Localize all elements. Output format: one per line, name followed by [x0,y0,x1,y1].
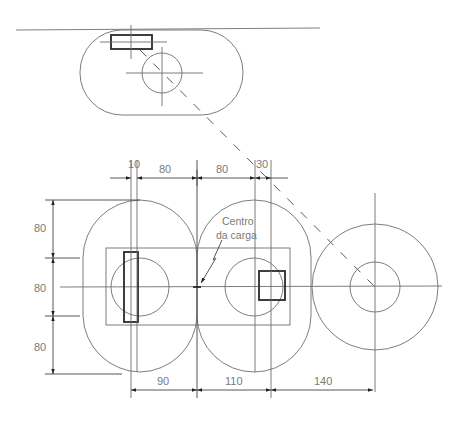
dim-label-30: 30 [256,158,268,170]
dim-label-80b: 80 [216,163,228,175]
main-centerline [60,286,442,287]
diagram-canvas: Centro da carga 10 80 80 30 80 80 80 90 … [0,0,462,422]
dim-bottom-label-140: 140 [314,375,332,387]
dim-left-label-1: 80 [34,222,46,234]
annotation-leader-arrow [201,240,222,283]
annotation-line-2: da carga [216,229,257,241]
top-view [16,25,320,115]
dim-bottom-label-90: 90 [157,375,169,387]
bottom-dimensions: 90 110 140 [131,375,373,390]
dashed-projection-line [140,50,378,290]
right-load-square [259,271,285,300]
top-stadium-outline [80,30,243,115]
left-lobe-outline [83,200,197,372]
annotation-line-1: Centro [222,215,254,227]
dim-label-10: 10 [128,158,140,170]
middle-circle [225,258,283,316]
main-view [60,160,442,398]
dim-bottom-label-110: 110 [225,375,243,387]
dim-left-label-3: 80 [34,341,46,353]
dim-label-80a: 80 [159,163,171,175]
dim-left-label-2: 80 [34,282,46,294]
